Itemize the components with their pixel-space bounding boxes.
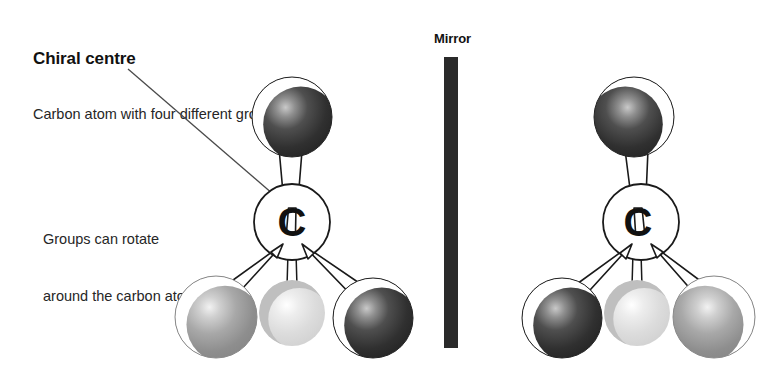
atom-top-right-molecule xyxy=(594,77,674,157)
diagram-canvas: Chiral centre Carbon atom with four diff… xyxy=(0,0,770,372)
atom-bottom-left-right-molecule xyxy=(522,278,602,358)
molecule-illustration: C xyxy=(0,0,770,372)
molecule-right: C xyxy=(522,77,755,358)
atom-bottom-centre-left-molecule xyxy=(259,280,325,346)
atom-bottom-left-left-molecule xyxy=(175,276,257,358)
carbon-centre-left-molecule: C xyxy=(254,184,330,260)
atom-bottom-centre-right-molecule xyxy=(604,280,670,346)
carbon-symbol-left: C xyxy=(278,200,307,244)
carbon-centre-right-molecule: C xyxy=(603,184,679,260)
atom-top-left-molecule xyxy=(252,77,332,157)
atom-bottom-right-right-molecule xyxy=(673,276,755,358)
carbon-symbol-right: C xyxy=(624,200,653,244)
molecule-left: C xyxy=(175,77,413,358)
atom-bottom-right-left-molecule xyxy=(333,278,413,358)
